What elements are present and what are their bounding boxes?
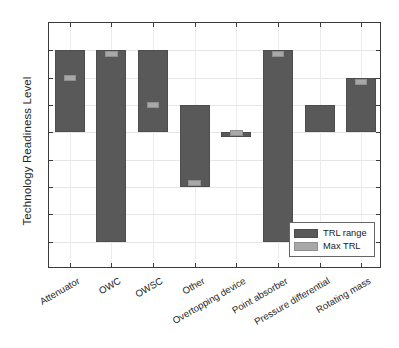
y-axis-title: Technology Readiness Level (21, 21, 33, 281)
bar-trl-range (263, 50, 293, 241)
x-tick-mark (278, 263, 279, 267)
legend-label-trl-range: TRL range (323, 228, 367, 238)
y-tick-mark (376, 50, 380, 51)
x-tick-mark (153, 263, 154, 267)
legend-item-max-trl: Max TRL (294, 240, 370, 252)
bar-trl-range (305, 105, 335, 132)
x-tick-label: Other (180, 275, 206, 297)
y-tick-mark (376, 105, 380, 106)
y-tick-mark (376, 160, 380, 161)
y-tick-mark (49, 78, 53, 79)
bar-trl-range (180, 105, 210, 187)
y-tick-mark (49, 132, 53, 133)
y-tick-mark (49, 50, 53, 51)
legend-swatch-max-trl (294, 242, 318, 251)
marker-max-trl (105, 51, 118, 57)
y-tick-mark (49, 242, 53, 243)
marker-max-trl (230, 130, 243, 136)
x-tick-mark (195, 23, 196, 27)
y-tick-mark (376, 214, 380, 215)
x-tick-mark (236, 263, 237, 267)
gridline-vertical (236, 23, 237, 267)
x-tick-label: Attenuator (37, 275, 81, 307)
y-tick-mark (376, 132, 380, 133)
x-tick-mark (195, 263, 196, 267)
x-tick-mark (111, 263, 112, 267)
bar-trl-range (138, 50, 168, 132)
x-tick-mark (111, 23, 112, 27)
legend-item-trl-range: TRL range (294, 227, 370, 239)
bar-trl-range (55, 50, 85, 132)
y-tick-mark (49, 214, 53, 215)
x-tick-mark (361, 23, 362, 27)
x-tick-mark (70, 263, 71, 267)
chart-legend: TRL range Max TRL (289, 222, 375, 257)
marker-max-trl (272, 51, 285, 57)
x-tick-mark (361, 263, 362, 267)
y-tick-mark (49, 160, 53, 161)
y-tick-mark (376, 242, 380, 243)
y-tick-mark (376, 78, 380, 79)
y-tick-mark (49, 105, 53, 106)
legend-label-max-trl: Max TRL (323, 241, 361, 251)
x-tick-mark (320, 263, 321, 267)
y-tick-mark (49, 187, 53, 188)
marker-max-trl (355, 79, 368, 85)
x-tick-label: OWSC (133, 275, 164, 299)
x-tick-mark (320, 23, 321, 27)
x-tick-mark (70, 23, 71, 27)
legend-swatch-trl-range (294, 229, 318, 238)
y-tick-mark (376, 187, 380, 188)
chart-figure: Technology Readiness Level 0123456789Att… (0, 0, 399, 348)
bar-trl-range (346, 78, 376, 133)
x-tick-label: OWC (97, 275, 123, 296)
x-tick-mark (236, 23, 237, 27)
marker-max-trl (188, 180, 201, 186)
marker-max-trl (64, 75, 77, 81)
marker-max-trl (147, 102, 160, 108)
x-tick-label: Overtopping device (171, 275, 248, 326)
bar-trl-range (96, 50, 126, 241)
x-tick-mark (278, 23, 279, 27)
x-tick-mark (153, 23, 154, 27)
